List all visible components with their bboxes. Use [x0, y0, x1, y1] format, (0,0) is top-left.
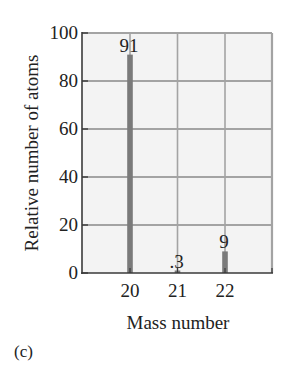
y-tick-label: 20 [59, 214, 78, 235]
y-tick-label: 80 [59, 70, 78, 91]
chart-canvas: 020406080100 202122 91.39 Relative numbe… [0, 0, 288, 370]
y-tick-labels: 020406080100 [50, 22, 79, 283]
x-tick-label: 22 [216, 280, 235, 301]
figure-caption: (c) [14, 342, 33, 362]
data-label-mass-22: 9 [219, 231, 229, 252]
x-tick-label: 21 [168, 280, 187, 301]
x-axis-label: Mass number [127, 312, 231, 333]
y-tick-label: 100 [50, 22, 79, 43]
x-tick-labels: 202122 [121, 280, 235, 301]
y-tick-label: 60 [59, 118, 78, 139]
y-tick-label: 0 [69, 262, 79, 283]
y-axis-label: Relative number of atoms [21, 55, 42, 252]
data-label-mass-20: 91 [120, 35, 139, 56]
bar-mass-20 [127, 55, 133, 273]
data-label-mass-21: .3 [169, 251, 183, 272]
y-tick-label: 40 [59, 166, 78, 187]
x-tick-label: 20 [121, 280, 140, 301]
mass-spectrum-chart: 020406080100 202122 91.39 Relative numbe… [0, 0, 288, 370]
